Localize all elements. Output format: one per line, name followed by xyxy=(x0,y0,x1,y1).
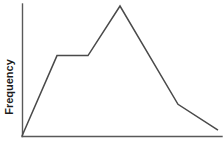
chart-canvas: Frequency xyxy=(0,0,224,144)
y-axis-title: Frequency xyxy=(3,58,15,115)
chart-background xyxy=(0,0,224,144)
frequency-line-chart: Frequency xyxy=(0,0,224,144)
